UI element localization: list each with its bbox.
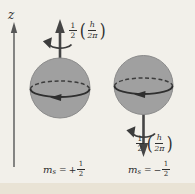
fraction-denominator: 2π	[87, 31, 97, 40]
spin-down-magnitude-label: 1 2 ( h 2π )	[136, 134, 173, 153]
fraction-numerator: 1	[69, 22, 77, 32]
h-over-2pi-fraction: h 2π	[154, 134, 164, 153]
left-paren: (	[80, 21, 86, 40]
spin-down-quantum-number-label: m s = − 1 2	[128, 161, 170, 178]
fraction-numerator: h	[155, 134, 163, 144]
spin-up-magnitude-label: 1 2 ( h 2π )	[69, 21, 106, 40]
coefficient-fraction: 1 2	[136, 135, 144, 153]
equals-sign: =	[59, 165, 67, 175]
fraction-denominator: 2	[71, 31, 76, 40]
electron-spin-figure: z 1 2 ( h 2π ) 1 2 ( h 2π ) m s = + 1	[0, 0, 195, 194]
fraction-denominator: 2	[138, 144, 143, 153]
ms-symbol: m	[43, 164, 52, 175]
spin-down-sphere	[114, 56, 173, 115]
plus-sign: +	[69, 165, 77, 175]
h-over-2pi-fraction: h 2π	[87, 21, 97, 40]
right-paren: )	[166, 134, 172, 153]
ms-symbol: m	[128, 164, 137, 175]
fraction-numerator: 1	[77, 161, 84, 170]
z-axis	[11, 22, 17, 167]
spin-up-quantum-number-label: m s = + 1 2	[43, 161, 85, 178]
right-paren: )	[99, 21, 105, 40]
value-fraction: 1 2	[162, 161, 169, 178]
ms-subscript: s	[52, 168, 56, 176]
fraction-numerator: 1	[136, 135, 144, 145]
fraction-numerator: h	[88, 21, 96, 31]
z-axis-label: z	[8, 8, 14, 22]
fraction-numerator: 1	[162, 161, 169, 170]
value-fraction: 1 2	[77, 161, 84, 178]
left-paren: (	[147, 134, 153, 153]
equals-sign: =	[144, 165, 152, 175]
spin-up-arrowhead-icon	[55, 19, 65, 33]
spin-up-sphere	[30, 58, 90, 118]
fraction-denominator: 2	[79, 170, 83, 178]
fraction-denominator: 2	[164, 170, 168, 178]
coefficient-fraction: 1 2	[69, 22, 77, 40]
ms-subscript: s	[137, 168, 141, 176]
minus-sign: −	[154, 165, 162, 175]
fraction-denominator: 2π	[154, 144, 164, 153]
z-axis-arrowhead-icon	[11, 22, 17, 33]
